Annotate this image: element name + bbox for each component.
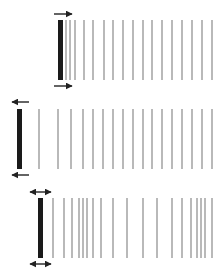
piston-moving-left-panel — [12, 102, 212, 175]
piston-moving-right-panel — [54, 14, 212, 86]
piston-bar — [38, 198, 43, 258]
piston-oscillating-panel — [30, 192, 212, 264]
piston-bar — [58, 20, 63, 80]
piston-bar — [17, 109, 22, 169]
sound-wave-diagram — [0, 0, 224, 276]
